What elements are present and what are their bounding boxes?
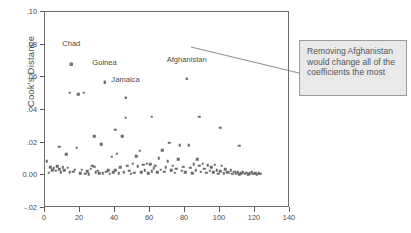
data-point xyxy=(93,135,96,138)
data-point xyxy=(114,169,117,172)
data-point xyxy=(205,172,208,175)
point-label-afghanistan: Afghanistan xyxy=(167,55,207,64)
data-point xyxy=(152,167,155,170)
data-point-jamaica xyxy=(124,97,127,100)
data-point xyxy=(133,172,136,175)
callout-box: Removing Afghanistan would change all of… xyxy=(299,40,407,96)
data-point xyxy=(93,166,96,169)
data-point xyxy=(203,168,206,171)
data-point xyxy=(137,165,140,168)
x-axis-tick-label: 60 xyxy=(134,213,164,222)
x-axis-tick xyxy=(114,207,115,212)
x-axis-tick-label: 40 xyxy=(99,213,129,222)
data-point xyxy=(165,166,168,169)
data-point xyxy=(49,166,52,169)
data-point xyxy=(179,144,182,147)
data-point xyxy=(198,165,201,168)
data-point xyxy=(84,172,87,175)
data-point xyxy=(198,116,201,119)
data-point xyxy=(126,164,129,167)
x-axis-tick xyxy=(44,207,45,212)
data-point xyxy=(172,165,175,168)
data-point xyxy=(135,155,138,158)
data-point xyxy=(81,168,84,171)
y-axis-tick-label: .10 xyxy=(11,7,37,16)
data-point xyxy=(228,172,231,175)
x-axis-tick-label: 80 xyxy=(169,213,199,222)
data-point xyxy=(107,169,110,172)
data-point xyxy=(214,163,217,166)
data-point xyxy=(142,163,145,166)
data-point xyxy=(77,93,80,96)
data-point xyxy=(259,172,262,175)
callout-text: Removing Afghanistan would change all of… xyxy=(307,46,395,77)
data-point xyxy=(130,172,133,175)
data-point xyxy=(193,163,196,166)
data-point xyxy=(151,170,154,173)
data-point xyxy=(124,117,127,120)
data-point xyxy=(68,92,71,95)
data-point xyxy=(88,173,91,176)
data-point xyxy=(207,164,210,167)
data-point xyxy=(46,160,49,163)
data-point xyxy=(221,165,224,168)
data-point xyxy=(131,162,134,165)
plot-area: ChadGuineaJamaicaAfghanistan xyxy=(44,11,289,207)
data-point xyxy=(173,172,176,175)
x-axis-tick-label: 0 xyxy=(29,213,59,222)
data-point xyxy=(109,172,112,175)
data-point xyxy=(208,170,211,173)
data-point xyxy=(189,167,192,170)
y-axis-tick-label: 0.00 xyxy=(11,170,37,179)
data-point xyxy=(144,169,147,172)
data-point xyxy=(191,172,194,175)
data-point xyxy=(222,172,225,175)
data-point xyxy=(121,135,124,138)
data-point xyxy=(182,166,185,169)
data-point xyxy=(229,169,232,172)
data-point xyxy=(200,170,203,173)
data-point xyxy=(180,170,183,173)
x-axis-tick xyxy=(254,207,255,212)
data-point xyxy=(161,149,164,152)
data-point xyxy=(159,168,162,171)
data-point xyxy=(201,163,204,166)
data-point xyxy=(175,168,178,171)
data-point xyxy=(210,166,213,169)
x-axis-tick-label: 20 xyxy=(64,213,94,222)
data-point xyxy=(68,171,71,174)
data-point xyxy=(54,170,57,173)
x-axis-tick xyxy=(289,207,290,212)
y-axis-tick-label: .02 xyxy=(11,137,37,146)
data-point xyxy=(149,163,152,166)
data-point xyxy=(140,171,143,174)
data-point xyxy=(184,171,187,174)
data-point xyxy=(65,153,68,156)
y-axis-tick-label: .08 xyxy=(11,39,37,48)
data-point xyxy=(72,170,75,173)
data-point xyxy=(219,127,222,130)
data-point xyxy=(156,171,159,174)
x-axis-tick-label: 140 xyxy=(274,213,304,222)
data-point xyxy=(145,163,148,166)
data-point xyxy=(63,169,66,172)
data-point xyxy=(196,158,199,161)
data-point xyxy=(170,169,173,172)
data-point xyxy=(219,170,222,173)
data-point xyxy=(74,168,77,171)
data-point xyxy=(123,171,126,174)
data-point xyxy=(187,144,190,147)
data-point xyxy=(217,172,220,175)
data-point xyxy=(116,153,119,156)
data-point xyxy=(166,160,169,163)
data-point xyxy=(138,150,141,153)
point-label-chad: Chad xyxy=(62,39,80,48)
data-point xyxy=(168,141,171,144)
data-point xyxy=(215,169,218,172)
data-point xyxy=(79,172,82,175)
data-point xyxy=(75,147,78,150)
scatter-points-layer xyxy=(45,12,288,206)
data-point xyxy=(102,172,105,175)
data-point xyxy=(47,172,50,175)
data-point-chad xyxy=(70,63,73,66)
